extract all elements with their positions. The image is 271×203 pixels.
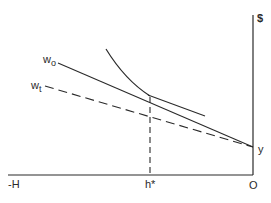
indifference-curve — [106, 49, 150, 96]
budget-line-w0 — [58, 63, 253, 147]
origin-label: O — [249, 179, 258, 191]
w0-label: wo — [42, 53, 56, 68]
wt-label: wt — [30, 79, 42, 94]
y-intercept-label: y — [258, 143, 264, 155]
h-star-label: h* — [145, 178, 156, 190]
dollar-label: $ — [257, 12, 263, 24]
minus-h-label: -H — [8, 178, 20, 190]
diagram-canvas: wo wt $ y -H h* O — [0, 0, 271, 203]
